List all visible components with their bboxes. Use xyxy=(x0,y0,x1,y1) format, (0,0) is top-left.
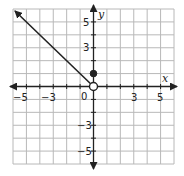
x-tick-label: 5 xyxy=(157,92,163,103)
x-tick-label: −3 xyxy=(41,92,56,103)
y-tick-label: −5 xyxy=(77,146,92,157)
x-axis-label: x xyxy=(162,72,169,85)
y-tick-label: 3 xyxy=(83,42,89,53)
y-tick-label: −3 xyxy=(77,120,92,131)
coordinate-plane: x y 0 −5 −3 3 5 5 3 −3 −5 xyxy=(0,0,184,176)
closed-point-icon xyxy=(90,70,97,77)
y-axis-label: y xyxy=(97,8,105,21)
x-tick-label: 3 xyxy=(131,92,137,103)
y-tick-label: 5 xyxy=(83,17,89,28)
x-tick-label: −5 xyxy=(13,92,28,103)
origin-label: 0 xyxy=(81,91,87,102)
open-circle-icon xyxy=(90,83,98,91)
